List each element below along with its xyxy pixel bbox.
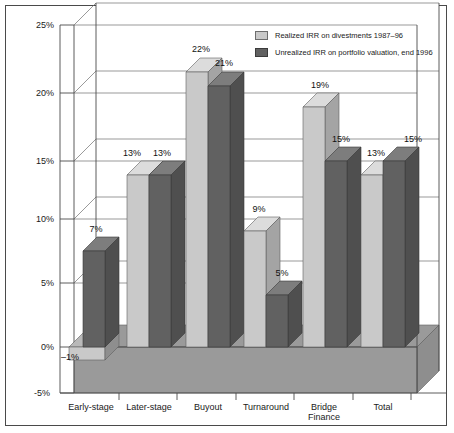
bar-value-buyout-unrealized: 21% bbox=[204, 58, 244, 68]
bar-value-turnaround-realized: 9% bbox=[239, 204, 279, 214]
bar-value-bridge-realized: 19% bbox=[300, 80, 340, 90]
x-tick-label-buyout: Buyout bbox=[180, 402, 236, 412]
y-tick-label-15: 15% bbox=[20, 156, 54, 166]
bar-value-bridge-unrealized: 15% bbox=[321, 134, 361, 144]
x-tick-label-early-stage: Early-stage bbox=[63, 402, 119, 412]
chart-frame bbox=[5, 5, 447, 426]
bar-value-total-realized: 13% bbox=[356, 148, 396, 158]
legend-item-realized: Realized IRR on divestments 1987–96 bbox=[255, 28, 437, 42]
bar-value-buyout-realized: 22% bbox=[181, 44, 221, 54]
bar-value-early-stage-unrealized: 7% bbox=[76, 224, 116, 234]
x-tick-label-bridge-finance: Bridge Finance bbox=[294, 402, 354, 422]
y-tick-label-0: 0% bbox=[20, 342, 54, 352]
x-tick-label-later-stage: Later-stage bbox=[121, 402, 177, 412]
legend-swatch-unrealized-icon bbox=[255, 48, 268, 57]
y-tick-label-5: 5% bbox=[20, 278, 54, 288]
bar-value-later-stage-unrealized: 13% bbox=[142, 148, 182, 158]
bar-value-early-stage-realized: –1% bbox=[50, 352, 90, 362]
chart-screenshot: 25% 20% 15% 10% 5% 0% -5% Early-stage La… bbox=[0, 0, 454, 433]
x-tick-label-total: Total bbox=[355, 402, 411, 412]
legend-label-unrealized: Unrealized IRR on portfolio valuation, e… bbox=[275, 48, 433, 57]
bar-value-turnaround-unrealized: 5% bbox=[262, 268, 302, 278]
legend-label-realized: Realized IRR on divestments 1987–96 bbox=[275, 31, 403, 40]
chart-legend: Realized IRR on divestments 1987–96 Unre… bbox=[255, 28, 437, 60]
y-tick-label-neg5: -5% bbox=[16, 388, 50, 398]
y-tick-label-10: 10% bbox=[20, 214, 54, 224]
legend-swatch-realized-icon bbox=[255, 31, 268, 40]
bar-value-total-unrealized: 15% bbox=[393, 134, 433, 144]
x-tick-label-turnaround: Turnaround bbox=[238, 402, 294, 412]
y-tick-label-25: 25% bbox=[20, 20, 54, 30]
legend-item-unrealized: Unrealized IRR on portfolio valuation, e… bbox=[255, 45, 437, 59]
y-tick-label-20: 20% bbox=[20, 88, 54, 98]
